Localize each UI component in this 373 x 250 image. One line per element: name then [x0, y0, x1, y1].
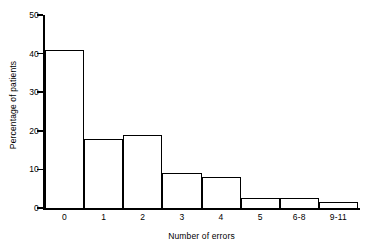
y-tick-label: 10	[17, 165, 39, 173]
bar-series	[45, 15, 358, 208]
y-tick-mark	[37, 207, 43, 209]
x-tick-label: 9-11	[319, 212, 358, 222]
x-axis-line	[43, 208, 360, 210]
y-tick-label: 0	[17, 204, 39, 212]
x-tick-label: 0	[45, 212, 84, 222]
bar	[123, 135, 162, 208]
y-tick-mark	[37, 130, 43, 132]
histogram-figure: Percentage of patients 0 10 20 30 40 50 …	[0, 0, 373, 250]
y-tick-mark	[37, 53, 43, 55]
y-tick-label: 50	[17, 11, 39, 19]
x-axis-label: Number of errors	[45, 231, 358, 241]
plot-area	[45, 15, 358, 208]
y-tick-mark	[37, 91, 43, 93]
y-axis-tick-labels: 0 10 20 30 40 50	[17, 0, 39, 250]
x-tick-label: 6-8	[280, 212, 319, 222]
bar	[84, 139, 123, 208]
y-tick-label: 20	[17, 127, 39, 135]
y-tick-mark	[37, 169, 43, 171]
bar	[319, 202, 358, 208]
bar	[45, 50, 84, 208]
y-tick-label: 30	[17, 88, 39, 96]
y-tick-label: 40	[17, 50, 39, 58]
bar	[241, 198, 280, 208]
x-tick-label: 4	[202, 212, 241, 222]
x-axis-tick-labels: 0123456-89-11	[45, 212, 358, 226]
y-tick-mark	[37, 14, 43, 16]
bar	[280, 198, 319, 208]
x-tick-label: 2	[123, 212, 162, 222]
x-tick-label: 3	[162, 212, 201, 222]
x-tick-label: 5	[241, 212, 280, 222]
bar	[162, 173, 201, 208]
x-tick-label: 1	[84, 212, 123, 222]
bar	[202, 177, 241, 208]
